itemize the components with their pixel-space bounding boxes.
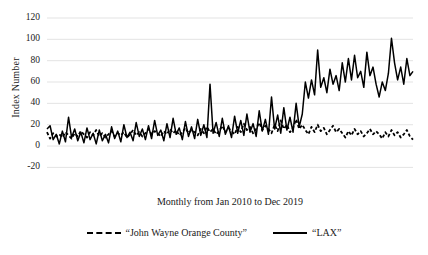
series-line-1 xyxy=(47,38,413,144)
legend-swatch-dashed xyxy=(87,228,121,238)
y-tick-neg20: -20 xyxy=(12,162,40,172)
y-tick-60: 60 xyxy=(12,77,40,87)
y-tick-20: 20 xyxy=(12,120,40,130)
y-tick-100: 100 xyxy=(12,34,40,44)
legend-label-0: “John Wayne Orange County” xyxy=(126,227,247,238)
legend-entry-1[interactable]: “LAX” xyxy=(273,227,341,238)
index-number-line-chart: Index Number -20020406080100120 Monthly … xyxy=(0,0,428,255)
gridlines xyxy=(47,18,413,167)
series-canvas xyxy=(47,18,413,167)
plot-area xyxy=(47,18,413,167)
y-tick-80: 80 xyxy=(12,56,40,66)
legend-swatch-solid xyxy=(273,228,307,238)
legend-entry-0[interactable]: “John Wayne Orange County” xyxy=(87,227,247,238)
y-tick-120: 120 xyxy=(12,13,40,23)
data-series xyxy=(47,38,413,144)
x-axis-title: Monthly from Jan 2010 to Dec 2019 xyxy=(47,196,413,207)
y-tick-0: 0 xyxy=(12,141,40,151)
legend-label-1: “LAX” xyxy=(312,227,341,238)
y-tick-40: 40 xyxy=(12,98,40,108)
chart-legend: “John Wayne Orange County”“LAX” xyxy=(0,227,428,238)
